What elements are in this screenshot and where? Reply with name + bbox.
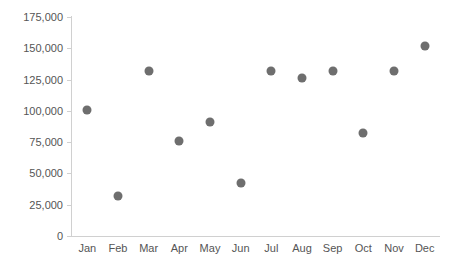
data-point [236, 179, 245, 188]
y-axis-tick-label: 100,000 [23, 105, 63, 116]
data-point [267, 66, 276, 75]
y-axis-tick-label: 125,000 [23, 74, 63, 85]
x-axis-tick-label: Jun [232, 243, 250, 254]
x-axis-tick-label: Mar [139, 243, 158, 254]
x-axis-tick-label: Aug [292, 243, 312, 254]
data-point [298, 74, 307, 83]
data-point [83, 105, 92, 114]
x-axis-tick-label: Jan [78, 243, 96, 254]
y-axis-tick-label: 175,000 [23, 12, 63, 23]
x-axis-tick-label: Feb [109, 243, 128, 254]
y-axis-tick [67, 236, 72, 237]
x-axis-tick-label: Apr [171, 243, 188, 254]
x-axis-tick-label: Sep [323, 243, 343, 254]
y-axis-tick-label: 50,000 [29, 168, 63, 179]
y-axis-tick-label: 150,000 [23, 43, 63, 54]
y-axis-tick-label: 0 [57, 231, 63, 242]
x-axis-tick-label: Jul [264, 243, 278, 254]
data-point [175, 136, 184, 145]
data-point [328, 66, 337, 75]
data-point [144, 66, 153, 75]
plot-area [72, 17, 440, 236]
scatter-chart: 025,00050,00075,000100,000125,000150,000… [0, 0, 464, 271]
data-point [390, 66, 399, 75]
data-point [206, 118, 215, 127]
x-axis-tick-label: Nov [384, 243, 404, 254]
data-point [420, 41, 429, 50]
data-point [114, 191, 123, 200]
x-axis-line [71, 236, 440, 237]
x-axis-tick-label: Dec [415, 243, 435, 254]
data-point [359, 129, 368, 138]
x-axis-tick-label: Oct [355, 243, 372, 254]
y-axis-tick-label: 25,000 [29, 199, 63, 210]
y-axis-tick-label: 75,000 [29, 137, 63, 148]
x-axis-tick-label: May [200, 243, 221, 254]
